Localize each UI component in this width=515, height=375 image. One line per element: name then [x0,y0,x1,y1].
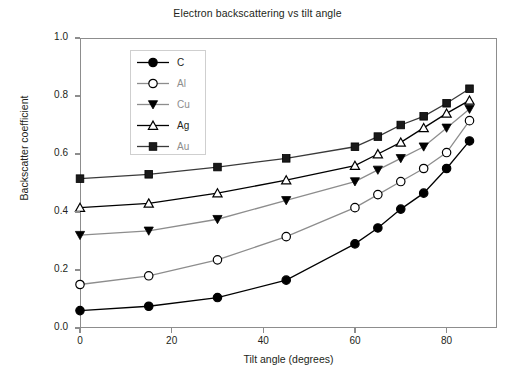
data-point-filled-square [443,99,451,107]
data-point-filled-square [282,155,290,163]
data-point-filled-circle [76,306,84,314]
x-tick-label: 80 [432,335,462,346]
data-point-filled-square [149,143,157,151]
legend-label: Au [177,136,189,157]
legend-label: Ag [177,115,189,136]
data-point-filled-square [76,175,84,183]
legend-item-al[interactable]: Al [131,73,207,94]
data-point-filled-square [397,121,405,129]
y-tick-mark [75,37,80,38]
data-point-filled-circle [419,189,427,197]
data-point-open-circle [465,116,473,124]
data-point-filled-triangle-down [396,155,405,163]
x-tick-mark [171,328,172,333]
data-point-open-triangle-up [350,161,359,169]
data-point-open-triangle-up [373,150,382,158]
data-point-open-circle [442,148,450,156]
y-axis-label: Backscatter coefficient [18,68,30,228]
legend-label: C [177,52,184,73]
data-point-filled-circle [442,164,450,172]
legend-item-cu[interactable]: Cu [131,94,207,115]
data-point-open-triangle-up [419,124,428,132]
data-point-filled-circle [145,302,153,310]
data-point-filled-circle [351,240,359,248]
y-tick-mark [75,269,80,270]
x-tick-mark [354,328,355,333]
data-point-filled-triangle-down [373,166,382,174]
data-point-open-circle [351,203,359,211]
data-point-filled-circle [282,276,290,284]
data-point-filled-square [420,113,428,121]
data-point-filled-square [214,163,222,171]
x-axis-label: Tilt angle (degrees) [80,353,497,365]
data-point-open-circle [419,164,427,172]
y-tick-mark [75,95,80,96]
x-tick-label: 20 [157,335,187,346]
y-tick-label: 0.8 [32,89,68,100]
data-point-open-circle [145,272,153,280]
series-line-c [80,141,470,311]
data-point-open-circle [374,190,382,198]
y-tick-label: 0.4 [32,205,68,216]
x-tick-label: 0 [65,335,95,346]
data-point-open-circle [397,177,405,185]
x-tick-label: 60 [340,335,370,346]
data-point-open-triangle-up [442,109,451,117]
chart-figure: Electron backscattering vs tilt angle 0.… [0,0,515,375]
legend-marker-filled-triangle-down [131,94,175,115]
x-tick-mark [446,328,447,333]
y-tick-label: 1.0 [32,31,68,42]
data-point-open-circle [213,256,221,264]
data-point-filled-square [145,171,153,179]
legend-label: Cu [177,94,190,115]
legend-marker-open-triangle-up [131,115,175,136]
x-tick-label: 40 [248,335,278,346]
data-point-open-circle [76,280,84,288]
data-point-filled-circle [149,58,157,66]
data-point-filled-square [466,85,474,93]
legend-marker-open-circle [131,73,175,94]
data-point-open-triangle-up [465,96,474,104]
legend-item-au[interactable]: Au [131,136,207,157]
y-tick-label: 0.0 [32,321,68,332]
data-point-filled-circle [213,293,221,301]
data-point-filled-square [374,133,382,141]
x-tick-mark [263,328,264,333]
data-point-filled-circle [374,224,382,232]
x-tick-mark [79,328,80,333]
y-tick-label: 0.2 [32,263,68,274]
chart-title: Electron backscattering vs tilt angle [0,7,515,19]
legend-marker-filled-square [131,136,175,157]
legend-marker-filled-circle [131,52,175,73]
data-point-open-triangle-up [396,138,405,146]
legend-item-c[interactable]: C [131,52,207,73]
data-point-filled-circle [397,205,405,213]
chart-legend: CAlCuAgAu [130,50,206,155]
data-point-filled-triangle-down [419,143,428,151]
legend-item-ag[interactable]: Ag [131,115,207,136]
data-point-open-circle [149,79,157,87]
y-tick-mark [75,211,80,212]
legend-label: Al [177,73,186,94]
data-point-filled-square [351,143,359,151]
data-point-open-circle [282,232,290,240]
data-point-filled-circle [465,137,473,145]
y-tick-label: 0.6 [32,147,68,158]
y-tick-mark [75,153,80,154]
